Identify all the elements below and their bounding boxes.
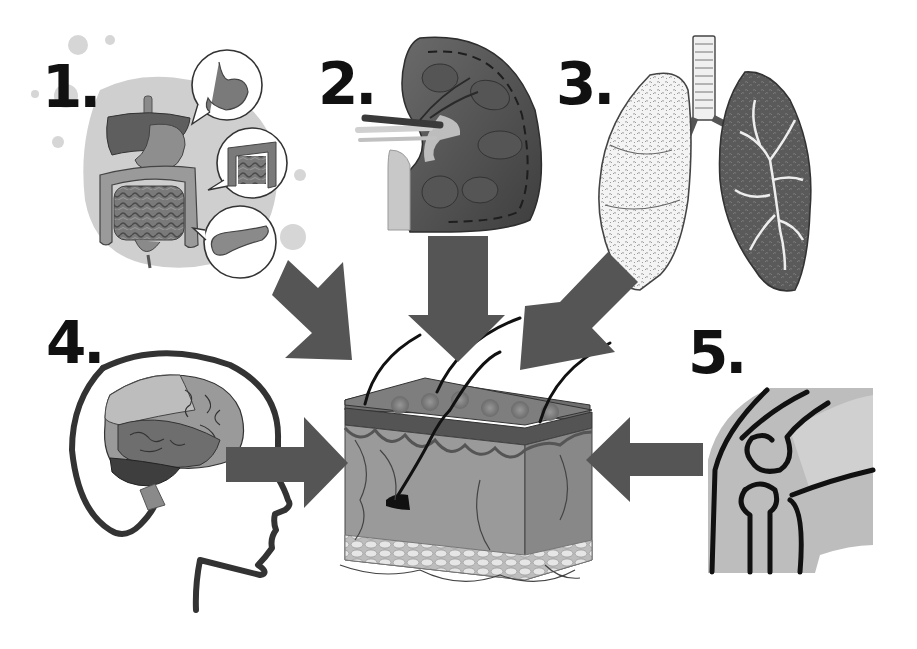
decor-bubble (280, 224, 306, 250)
trachea-icon (693, 36, 715, 120)
decor-bubble (68, 35, 88, 55)
ureter-icon (388, 150, 410, 230)
kidney-icon (402, 37, 541, 232)
decor-bubble (105, 35, 115, 45)
decor-bubble (52, 136, 64, 148)
brain-icon (105, 375, 244, 510)
kidney-illustration (358, 37, 541, 232)
arrow-lungs-to-skin (520, 252, 638, 370)
small-intestine-icon (114, 186, 184, 240)
knee-joint-illustration (708, 388, 873, 573)
label-1: 1. (42, 58, 98, 116)
diagram-canvas (0, 0, 917, 649)
label-2: 2. (318, 55, 374, 113)
label-3: 3. (556, 55, 612, 113)
decor-bubble (31, 90, 39, 98)
arrow-kidney-to-skin (408, 236, 505, 362)
arrow-digestive-to-skin (272, 260, 352, 360)
label-5: 5. (688, 324, 744, 382)
arrow-knee-to-skin (586, 417, 703, 502)
lungs-illustration (599, 36, 811, 291)
decor-bubble (294, 169, 306, 181)
right-lung-icon (720, 72, 811, 291)
label-4: 4. (46, 314, 102, 372)
